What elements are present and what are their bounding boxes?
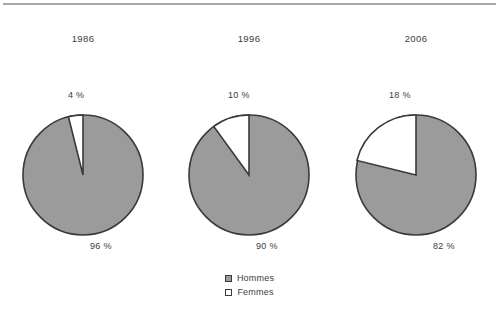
slice-label-hommes-1986-text: 96 % bbox=[90, 241, 112, 251]
panel-year-label-1996: 1996 bbox=[166, 33, 332, 44]
panel-year-label-1986: 1986 bbox=[0, 33, 166, 44]
pie-chart-figure: 1986 4 % 96 % 1996 10 % 90 % bbox=[0, 0, 499, 322]
legend-swatch-femmes-icon bbox=[225, 289, 232, 296]
pie-panel-1986: 1986 4 % 96 % bbox=[0, 0, 166, 270]
pie-panel-1996: 1996 10 % 90 % bbox=[166, 0, 332, 270]
legend-swatch-hommes-icon bbox=[225, 275, 232, 282]
pie-graphic-2006 bbox=[333, 111, 499, 239]
pie-panel-2006: 2006 18 % 82 % bbox=[333, 0, 499, 270]
legend-item-femmes: Femmes bbox=[225, 286, 273, 298]
pie-svg-2006 bbox=[352, 111, 480, 239]
legend-item-hommes: Hommes bbox=[225, 272, 274, 284]
panel-year-label-2006: 2006 bbox=[333, 33, 499, 44]
slice-label-hommes-2006-text: 82 % bbox=[433, 241, 455, 251]
slice-label-femmes-2006: 18 % bbox=[333, 90, 499, 100]
pie-svg-1996 bbox=[185, 111, 313, 239]
legend-label-hommes: Hommes bbox=[237, 272, 274, 284]
slice-label-femmes-1996-text: 10 % bbox=[228, 90, 250, 100]
pie-graphic-1986 bbox=[0, 111, 166, 239]
slice-label-hommes-1996-text: 90 % bbox=[256, 241, 278, 251]
pie-svg-1986 bbox=[19, 111, 147, 239]
chart-legend: Hommes Femmes bbox=[0, 272, 499, 298]
slice-label-hommes-2006: 82 % bbox=[333, 241, 499, 251]
legend-label-femmes: Femmes bbox=[237, 286, 273, 298]
slice-label-femmes-1986-text: 4 % bbox=[68, 90, 84, 100]
pie-graphic-1996 bbox=[166, 111, 332, 239]
slice-label-femmes-2006-text: 18 % bbox=[389, 90, 411, 100]
